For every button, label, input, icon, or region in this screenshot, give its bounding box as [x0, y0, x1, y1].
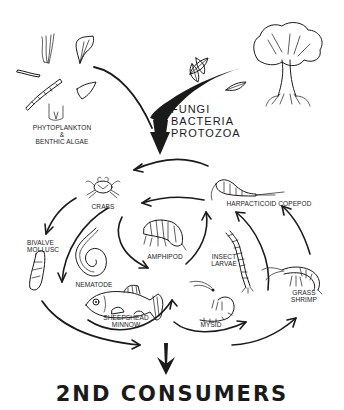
mysid-label: MYSID [196, 321, 226, 328]
amphipod-label: AMPHIPOD [140, 253, 190, 260]
decomposer-bacteria: BACTERIA [171, 115, 241, 127]
grass-shrimp-label-line2: SHRIMP [284, 296, 324, 303]
grass-shrimp-label-line1: GRASS [284, 289, 324, 296]
food-web-diagram: PHYTOPLANKTON & BENTHIC ALGAE + FUNGI BA… [0, 0, 344, 410]
crab-icon [86, 177, 120, 198]
producers-label-line2: & [28, 131, 96, 138]
bivalve-label-line2: MOLLUSC [27, 246, 59, 253]
nematode-label: NEMATODE [72, 281, 116, 288]
decomposer-fungi: FUNGI [171, 103, 241, 115]
crabs-label: CRABS [84, 203, 122, 210]
insect-larvae-label: INSECT LARVAE [206, 253, 242, 267]
amphipod-icon [144, 220, 186, 250]
producers-label: PHYTOPLANKTON & BENTHIC ALGAE [28, 124, 96, 145]
grass-shrimp-label: GRASS SHRIMP [284, 289, 324, 303]
bivalve-mollusc-label: BIVALVE MOLLUSC [27, 239, 59, 253]
phytoplankton-algae-icon [17, 34, 96, 120]
mangrove-tree-icon [254, 23, 322, 106]
insect-label-line2: LARVAE [206, 260, 242, 267]
plus-icon: + [161, 102, 170, 114]
nematode-icon [76, 228, 107, 276]
decomposer-protozoa: PROTOZOA [171, 127, 241, 139]
sheepshead-minnow-label: SHEEPSHEAD MINNOW [96, 314, 156, 328]
output-title: 2ND CONSUMERS [0, 382, 344, 406]
bivalve-label-line1: BIVALVE [27, 239, 59, 246]
insect-label-line1: INSECT [206, 253, 242, 260]
producers-label-line3: BENTHIC ALGAE [28, 138, 96, 145]
harpacticoid-copepod-icon [211, 180, 284, 200]
mysid-icon [190, 281, 234, 323]
decomposers-label: + FUNGI BACTERIA PROTOZOA [171, 103, 241, 139]
sheepshead-label-line2: MINNOW [96, 321, 156, 328]
harpacticoid-copepod-label: HARPACTICOID COPEPOD [214, 200, 324, 207]
output-arrow-icon [157, 343, 175, 375]
bivalve-mollusc-icon [30, 251, 45, 290]
producers-label-line1: PHYTOPLANKTON [28, 124, 96, 131]
sheepshead-label-line1: SHEEPSHEAD [96, 314, 156, 321]
